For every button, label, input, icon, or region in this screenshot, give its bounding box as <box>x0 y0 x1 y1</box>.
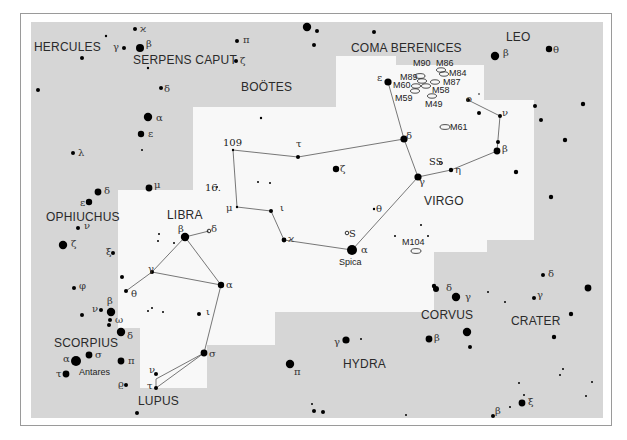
label-hercules: HERCULES <box>34 40 101 54</box>
deep-sky-label: M90 <box>413 58 431 68</box>
label-spica: Spica <box>339 257 362 267</box>
star-designation: γ <box>148 263 154 274</box>
star-designation: ο <box>466 93 472 104</box>
star-designation: θ <box>376 203 382 214</box>
star-designation: SS <box>429 156 443 167</box>
star-designation: β <box>178 223 184 234</box>
deep-sky-label: M60 <box>393 80 411 90</box>
label-coma-berenices: COMA BERENICES <box>351 41 462 55</box>
star-designation: β <box>146 38 152 49</box>
star-designation: γ <box>419 176 425 187</box>
star-designation: ξ <box>106 246 112 257</box>
star-designation: α <box>226 279 233 290</box>
star-designation: ϰ <box>140 23 146 34</box>
star-designation: ξ <box>528 396 534 407</box>
star-designation: S <box>349 228 356 239</box>
star-designation: π <box>243 34 250 45</box>
star-designation: ε <box>377 72 382 83</box>
star-designation: β <box>503 47 509 58</box>
star-designation: ζ <box>240 55 246 66</box>
deep-sky-label: M49 <box>425 99 443 109</box>
star-designation: φ <box>79 280 86 291</box>
label-crater: CRATER <box>511 314 561 328</box>
label-serpens-caput: SERPENS CAPUT <box>133 53 237 67</box>
star-designation: θ <box>553 44 559 55</box>
star-designation: δ <box>548 268 554 279</box>
star-designation: γ <box>113 41 119 52</box>
star-designation: μ <box>226 202 233 213</box>
star-designation: σ <box>95 349 102 360</box>
star-designation: λ <box>78 147 85 158</box>
star-designation: τ <box>147 380 153 391</box>
label-leo: LEO <box>506 30 531 44</box>
star-designation: γ <box>465 291 471 302</box>
star-designation: β <box>107 295 113 306</box>
star-designation: α <box>361 244 368 255</box>
star-designation: ε <box>148 128 153 139</box>
star-designation: τ <box>296 138 302 149</box>
star-designation: ε <box>80 197 85 208</box>
deep-sky-label: M104 <box>402 237 425 247</box>
star-designation: δ <box>104 185 110 196</box>
star-designation: δ <box>211 223 217 234</box>
star-designation: γ <box>334 336 340 347</box>
label-lupus: LUPUS <box>138 394 179 408</box>
star-designation: β <box>502 143 508 154</box>
star-designation: γ <box>537 289 543 300</box>
star-designation: ν <box>92 303 98 314</box>
star-designation: ζ <box>71 238 77 249</box>
star-designation: ν <box>149 364 155 375</box>
star-designation: θ <box>131 288 137 299</box>
star-designation: α <box>63 353 70 364</box>
star-designation: ζ <box>340 163 346 174</box>
star-designation: ι <box>280 202 284 213</box>
star-designation: δ <box>406 130 412 141</box>
deep-sky-label: M59 <box>395 93 413 103</box>
label-virgo: VIRGO <box>424 194 464 208</box>
star-designation: π <box>128 355 135 366</box>
label-ophiuchus: OPHIUCHUS <box>46 210 120 224</box>
star-designation: 109 <box>223 137 242 148</box>
deep-sky-label: M58 <box>432 85 450 95</box>
star-designation: σ <box>209 348 216 359</box>
label-libra: LIBRA <box>167 208 203 222</box>
deep-sky-label: M61 <box>450 122 468 132</box>
star-designation: μ <box>154 179 161 190</box>
star-designation: τ <box>56 368 62 379</box>
label-hydra: HYDRA <box>343 357 386 371</box>
deep-sky-label: M86 <box>436 58 454 68</box>
star-chart: HERCULES SERPENS CAPUT BOÖTES COMA BEREN… <box>0 0 627 440</box>
star-designation: ω <box>115 314 123 325</box>
star-designation: δ <box>127 330 133 341</box>
star-designation: β <box>495 405 501 416</box>
star-designation: 16. <box>205 182 221 193</box>
label-antares: Antares <box>79 367 111 377</box>
star-designation: δ <box>164 83 170 94</box>
star-designation: δ <box>446 282 452 293</box>
star-designation: π <box>294 366 301 377</box>
label-corvus: CORVUS <box>421 308 473 322</box>
star-designation: ϱ <box>118 378 124 389</box>
star-designation: ϰ <box>288 233 294 244</box>
star-designation: η <box>455 164 461 175</box>
star-designation: β <box>434 332 440 343</box>
star-designation: ν <box>502 107 508 118</box>
star-designation: α <box>156 112 163 123</box>
label-scorpius: SCORPIUS <box>54 336 118 350</box>
label-bootes: BOÖTES <box>241 80 292 94</box>
star-designation: ν <box>84 220 90 231</box>
star-designation: ι <box>206 306 210 317</box>
